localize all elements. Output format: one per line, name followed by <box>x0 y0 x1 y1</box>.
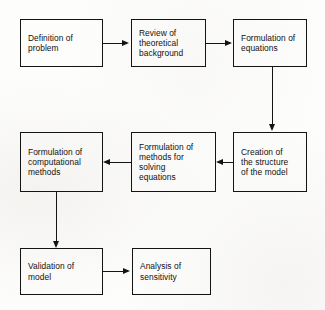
node-formulation-of-computational-methods[interactable]: Formulation of computational methods <box>20 132 103 192</box>
arrowhead-right-icon <box>123 268 130 274</box>
connector-solving-methods-to-computational <box>109 162 131 163</box>
node-creation-of-the-structure-of-the-model[interactable]: Creation of the structure of the model <box>233 132 307 192</box>
node-label: Formulation of equations <box>234 33 299 53</box>
arrowhead-left-icon <box>216 159 223 165</box>
node-label: Validation of model <box>21 261 78 281</box>
node-label: Analysis of sensitivity <box>133 261 185 281</box>
node-label: Creation of the structure of the model <box>234 147 292 178</box>
connector-validation-to-analysis <box>103 271 125 272</box>
node-label: Review of theoretical background <box>132 28 187 59</box>
connector-review-to-equations <box>206 43 227 44</box>
node-label: Formulation of methods for solving equat… <box>132 142 197 183</box>
node-label: Formulation of computational methods <box>21 147 86 178</box>
arrowhead-left-icon <box>103 159 110 165</box>
connector-equations-to-structure <box>272 67 273 125</box>
node-formulation-of-methods-for-solving-equations[interactable]: Formulation of methods for solving equat… <box>131 132 216 192</box>
connector-structure-to-solving-methods <box>222 162 233 163</box>
node-validation-of-model[interactable]: Validation of model <box>20 248 103 295</box>
node-label: Definition of problem <box>21 33 77 53</box>
connector-computational-to-validation <box>56 192 57 242</box>
flowchart-canvas: Definition of problem Review of theoreti… <box>0 0 325 310</box>
node-definition-of-problem[interactable]: Definition of problem <box>20 19 103 67</box>
connector-definition-to-review <box>103 43 124 44</box>
node-review-of-theoretical-background[interactable]: Review of theoretical background <box>131 19 206 67</box>
arrowhead-right-icon <box>225 40 232 46</box>
arrowhead-down-icon <box>269 124 275 131</box>
arrowhead-right-icon <box>122 40 129 46</box>
arrowhead-down-icon <box>53 241 59 248</box>
node-analysis-of-sensitivity[interactable]: Analysis of sensitivity <box>132 248 211 295</box>
node-formulation-of-equations[interactable]: Formulation of equations <box>233 19 307 67</box>
